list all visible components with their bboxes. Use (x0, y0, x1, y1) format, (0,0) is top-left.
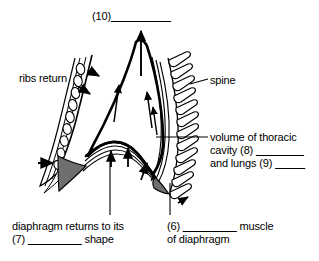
diaphragm-attachment-right (153, 177, 169, 194)
diaphragm-line-1: diaphragm returns to its (12, 220, 124, 232)
rib-oval (70, 87, 81, 100)
label-ribs-return: ribs return (19, 72, 67, 85)
label-thoracic-cavity: volume of thoraciccavity (8) ________and… (210, 131, 305, 170)
label-diaphragm-returns: diaphragm returns to its(7) _________ sh… (12, 220, 124, 246)
answer-blank-10: __________ (111, 10, 171, 22)
cavity-line-3-text: and lungs (9) (210, 157, 272, 169)
cavity-line-2-text: cavity (8) (210, 144, 253, 156)
muscle-line-1-prefix: (6) (167, 220, 180, 232)
costal-margin (44, 168, 59, 193)
label-10-text: (10) (92, 10, 111, 22)
label-diaphragm-muscle: (6) _________ muscleof diaphragm (167, 220, 273, 246)
diaphragm-line-2-suffix: shape (85, 233, 114, 245)
arrow-spine-base (178, 197, 188, 203)
muscle-line-2: of diaphragm (167, 233, 229, 245)
vertebra (170, 184, 192, 199)
arrow-rib-upper (88, 70, 99, 76)
muscle-line-1-suffix: muscle (240, 220, 274, 232)
vertebrae (169, 52, 199, 199)
thoracic-cavity (88, 40, 163, 174)
answer-blank-8: ________ (256, 144, 304, 156)
rib-oval (68, 99, 79, 112)
answer-blank-6: _________ (183, 220, 237, 232)
label-answer-10: (10)__________ (92, 10, 171, 23)
diaphragm-wedge-left (58, 156, 86, 191)
diaphragm-line-2-prefix: (7) (12, 233, 25, 245)
label-spine: spine (210, 74, 236, 87)
answer-blank-9: _____ (275, 157, 305, 169)
cavity-line-1: volume of thoracic (210, 131, 297, 143)
diaphragm-wedge-right (153, 177, 169, 194)
diaphragm-attachment-left (58, 156, 86, 191)
answer-blank-7: _________ (28, 233, 82, 245)
cavity-outline (88, 40, 163, 174)
